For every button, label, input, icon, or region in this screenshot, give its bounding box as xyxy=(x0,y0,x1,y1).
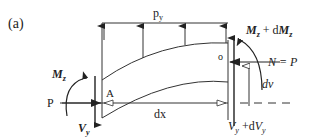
distributed-load xyxy=(102,23,228,118)
dx-arrow-left-icon xyxy=(104,100,113,106)
moment-right-label: Mz + dMz xyxy=(245,23,293,39)
axial-left-label: P xyxy=(47,96,54,110)
axial-right-label: N = P xyxy=(267,55,298,69)
beam-upper-curve xyxy=(102,43,228,80)
dx-arrow-right-icon xyxy=(217,100,226,106)
moment-right-arrow-icon xyxy=(240,40,262,90)
figure-label: (a) xyxy=(8,16,24,32)
distributed-load-label: py xyxy=(153,6,163,22)
deflection-label: dv xyxy=(262,77,274,91)
beam-element-diagram: (a) py dx Mz Vy P A Mz + dMz Vy +dVy N =… xyxy=(0,0,317,138)
moment-left-arrow-icon xyxy=(66,78,85,116)
moment-left-label: Mz xyxy=(51,67,67,83)
axial-left-arrow-icon xyxy=(91,99,101,107)
length-label: dx xyxy=(154,107,166,121)
point-right-label: o xyxy=(218,51,223,62)
shear-right-label: Vy +dVy xyxy=(228,119,266,135)
shear-left-label: Vy xyxy=(78,121,90,137)
point-left-label: A xyxy=(106,87,114,99)
